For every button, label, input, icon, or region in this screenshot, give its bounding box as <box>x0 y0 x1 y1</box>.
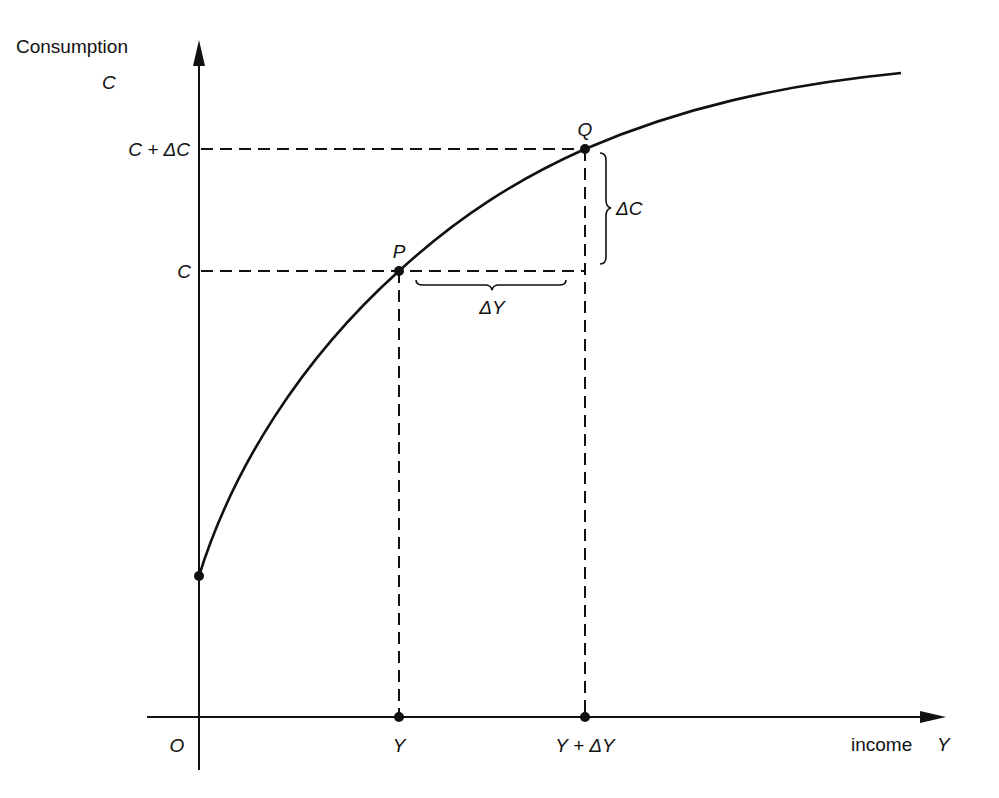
tick-c-plus-delta-c: C + ΔC <box>128 139 190 160</box>
point-p <box>394 266 404 276</box>
tick-y-plus-delta-y: Y + ΔY <box>555 735 616 756</box>
consumption-diagram: Consumption C C + ΔC C O Y Y + ΔY income… <box>0 0 999 798</box>
delta-c-label: ΔC <box>615 198 643 219</box>
delta-y-label: ΔY <box>478 297 506 318</box>
delta-y-brace <box>416 280 566 290</box>
guide-lines <box>201 149 585 717</box>
point-y <box>394 712 404 722</box>
delta-c-brace <box>600 153 611 264</box>
y-axis-symbol: C <box>102 72 116 93</box>
point-q <box>580 144 590 154</box>
tick-y: Y <box>393 735 407 756</box>
x-axis-label: income <box>851 734 912 755</box>
point-p-label: P <box>393 241 406 262</box>
intercept-point <box>194 571 204 581</box>
x-axis-arrow-icon <box>920 711 946 723</box>
origin-label: O <box>170 735 185 756</box>
y-axis-label: Consumption <box>16 36 128 57</box>
y-axis-arrow-icon <box>193 40 205 66</box>
tick-c: C <box>177 261 191 282</box>
point-y-plus-delta-y <box>580 712 590 722</box>
point-q-label: Q <box>578 119 593 140</box>
x-axis-symbol: Y <box>937 734 951 755</box>
x-axis <box>147 711 946 723</box>
